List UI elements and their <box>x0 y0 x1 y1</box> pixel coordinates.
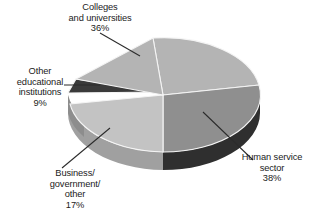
slice-label-colleges-and-universities: Colleges and universities 36% <box>36 2 164 34</box>
slice-label-human-service-sector: Human service sector 38% <box>228 152 316 184</box>
pie-top-face <box>68 38 261 152</box>
leader-line-colleges <box>100 33 140 56</box>
slice-label-business-government-other: Business/ government/ other 17% <box>22 168 128 210</box>
slice-label-other-educational-institutions: Other educational institutions 9% <box>0 66 82 108</box>
pie-chart-figure: Colleges and universities 36% Other educ… <box>0 0 316 214</box>
